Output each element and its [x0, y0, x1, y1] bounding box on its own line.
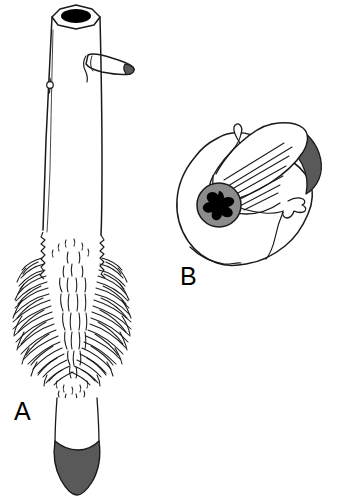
- figure-plate: A: [0, 0, 343, 504]
- basal-stalk: [56, 398, 98, 442]
- apical-aperture: [61, 9, 91, 23]
- illustration-canvas: A: [0, 0, 343, 504]
- panel-label-b: B: [180, 262, 197, 290]
- panel-label-a: A: [14, 397, 31, 425]
